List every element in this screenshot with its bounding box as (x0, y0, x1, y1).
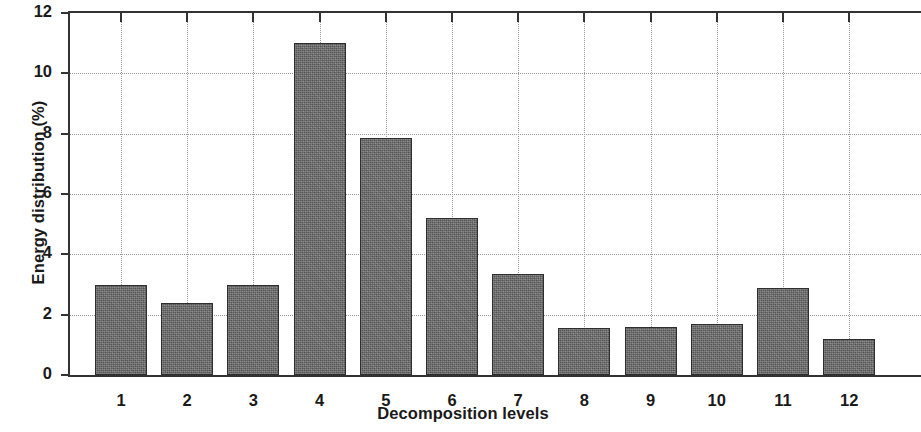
x-tick-3 (252, 13, 254, 22)
x-tick-8 (583, 13, 585, 22)
bar-level-11[interactable] (757, 288, 809, 375)
axis-top-spine (68, 11, 921, 13)
x-tick-label-12: 12 (824, 391, 874, 410)
x-tick-label-3: 3 (228, 391, 278, 410)
x-tick-4 (319, 13, 321, 22)
y-tick-label-8: 8 (43, 123, 52, 141)
bar-level-9[interactable] (625, 327, 677, 375)
plot-area: 024681012 123456789101112 (68, 11, 921, 377)
x-tick-label-10: 10 (692, 391, 742, 410)
x-tick-12 (848, 13, 850, 22)
x-tick-6 (451, 13, 453, 22)
y-tick-12: 12 (61, 12, 70, 14)
x-tick-5 (385, 13, 387, 22)
y-tick-label-10: 10 (34, 62, 52, 80)
gridline-y-10 (70, 73, 921, 74)
y-tick-label-4: 4 (43, 243, 52, 261)
x-tick-label-2: 2 (162, 391, 212, 410)
x-tick-label-7: 7 (493, 391, 543, 410)
bar-level-2[interactable] (161, 303, 213, 375)
x-tick-10 (716, 13, 718, 22)
gridline-x-12 (849, 13, 850, 375)
gridline-y-8 (70, 134, 921, 135)
y-tick-6: 6 (61, 193, 70, 195)
bar-level-1[interactable] (95, 285, 147, 376)
y-tick-4: 4 (61, 253, 70, 255)
bar-chart-figure: Energy distribution (%) Decomposition le… (0, 0, 921, 432)
bar-level-6[interactable] (426, 218, 478, 375)
x-tick-7 (517, 13, 519, 22)
x-tick-label-5: 5 (361, 391, 411, 410)
y-tick-label-2: 2 (43, 304, 52, 322)
x-tick-label-1: 1 (96, 391, 146, 410)
x-tick-1 (120, 13, 122, 22)
bar-level-10[interactable] (691, 324, 743, 375)
x-tick-9 (650, 13, 652, 22)
bar-level-4[interactable] (294, 43, 346, 375)
bar-level-8[interactable] (558, 328, 610, 375)
gridline-x-10 (717, 13, 718, 375)
x-tick-2 (186, 13, 188, 22)
gridline-y-4 (70, 254, 921, 255)
x-tick-label-4: 4 (295, 391, 345, 410)
gridline-x-9 (651, 13, 652, 375)
x-tick-label-8: 8 (559, 391, 609, 410)
x-tick-label-11: 11 (758, 391, 808, 410)
y-tick-label-6: 6 (43, 183, 52, 201)
y-tick-2: 2 (61, 314, 70, 316)
axis-bottom-spine (68, 375, 921, 377)
x-tick-label-6: 6 (427, 391, 477, 410)
y-tick-label-0: 0 (43, 364, 52, 382)
x-tick-label-9: 9 (626, 391, 676, 410)
bar-level-5[interactable] (360, 138, 412, 375)
y-tick-label-12: 12 (34, 2, 52, 20)
y-tick-0: 0 (61, 374, 70, 376)
y-tick-10: 10 (61, 72, 70, 74)
gridline-x-8 (584, 13, 585, 375)
bar-level-3[interactable] (227, 285, 279, 376)
gridline-y-6 (70, 194, 921, 195)
x-tick-11 (782, 13, 784, 22)
bar-level-12[interactable] (823, 339, 875, 375)
y-tick-8: 8 (61, 133, 70, 135)
bar-level-7[interactable] (492, 274, 544, 375)
